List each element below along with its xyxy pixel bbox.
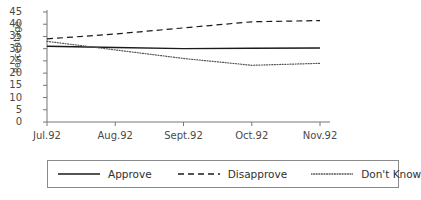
legend-entry: Approve [58,168,152,180]
chart-legend: ApproveDisapproveDon't Know [47,160,399,188]
legend-swatch-dashed [178,169,220,179]
legend-label: Approve [108,168,152,180]
y-axis-tick-label: 5 [0,105,22,115]
legend-label: Don't Know [361,168,421,180]
y-axis-tick-label: 45 [0,7,22,17]
legend-row: ApproveDisapproveDon't Know [48,161,398,187]
plot-area [20,4,340,132]
line-chart-figure: Percentage 454035302520151050 Jul.92Aug.… [0,0,421,200]
y-axis-tick-label: 25 [0,56,22,66]
y-axis-tick-label: 20 [0,68,22,78]
y-axis-tick-label: 10 [0,93,22,103]
series-line-don-t-know [47,41,320,65]
plot-svg [20,4,340,132]
y-axis-tick-label: 35 [0,31,22,41]
legend-swatch-dotted [311,169,353,179]
legend-entry: Disapprove [178,168,287,180]
y-axis-tick-label: 30 [0,44,22,54]
legend-label: Disapprove [228,168,287,180]
legend-swatch-solid [58,169,100,179]
y-axis-tick-label: 15 [0,80,22,90]
series-line-disapprove [47,21,320,39]
y-axis-tick-label: 0 [0,117,22,127]
y-axis-tick-label: 40 [0,19,22,29]
legend-entry: Don't Know [311,168,421,180]
